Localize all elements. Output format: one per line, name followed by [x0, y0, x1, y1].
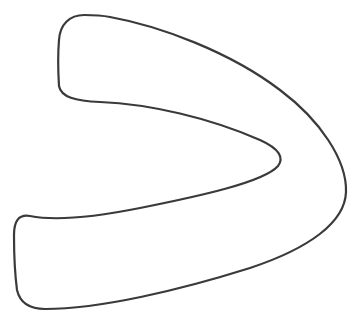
chevron-right-icon: [0, 0, 362, 323]
chevron-drawing-canvas: [0, 0, 362, 323]
chevron-outline-path: [14, 15, 346, 309]
